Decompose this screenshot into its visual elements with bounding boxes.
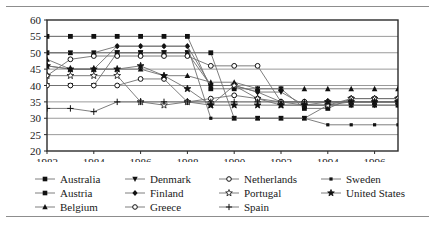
- data-point: [256, 117, 259, 120]
- data-point: [162, 54, 167, 59]
- data-point: [115, 34, 120, 39]
- data-point: [115, 83, 120, 88]
- legend-item-sweden[interactable]: Sweden: [320, 172, 405, 186]
- legend-item-label: Spain: [240, 201, 269, 213]
- data-point: [138, 77, 143, 82]
- y-tick-label: 35: [30, 96, 42, 108]
- data-point: [255, 63, 260, 68]
- data-point: [44, 62, 51, 69]
- x-tick-label: 1986: [130, 156, 153, 162]
- x-tick-label: 1990: [223, 156, 246, 162]
- diamond-filled-icon: [124, 187, 146, 199]
- data-point: [67, 72, 74, 79]
- data-point: [185, 54, 190, 59]
- data-point: [91, 34, 96, 39]
- data-point: [207, 102, 214, 109]
- legend-item-australia[interactable]: Australia: [34, 172, 100, 186]
- x-tick-label: 1982: [36, 156, 58, 162]
- line-chart: 2025303540455055601982198419861988199019…: [0, 12, 435, 162]
- legend-item-label: Greece: [146, 201, 181, 213]
- data-point: [162, 45, 165, 48]
- chart-svg: 2025303540455055601982198419861988199019…: [0, 12, 435, 162]
- data-point: [254, 102, 261, 109]
- x-tick-label: 1984: [83, 156, 106, 162]
- legend-item-label: United States: [342, 187, 405, 199]
- data-point: [68, 34, 73, 39]
- star-open-icon: [218, 187, 240, 199]
- chart-page: 2025303540455055601982198419861988199019…: [0, 0, 435, 232]
- legend-item-portugal[interactable]: Portugal: [218, 186, 297, 200]
- data-point: [133, 205, 138, 210]
- series-line: [47, 102, 398, 112]
- data-point: [303, 117, 306, 120]
- legend-item-label: Australia: [56, 173, 100, 185]
- x-tick-label: 1996: [364, 156, 387, 162]
- data-point: [43, 191, 48, 196]
- triangle-filled-icon: [34, 201, 56, 213]
- data-point: [138, 54, 143, 59]
- y-tick-label: 25: [30, 129, 42, 141]
- legend-item-label: Belgium: [56, 201, 98, 213]
- bottom-divider-rule: [6, 216, 429, 217]
- y-tick-label: 50: [30, 47, 42, 59]
- data-point: [279, 117, 282, 120]
- legend-item-austria[interactable]: Austria: [34, 186, 100, 200]
- data-point: [68, 83, 73, 88]
- data-point: [114, 72, 121, 79]
- data-point: [137, 62, 144, 69]
- plus-icon: [218, 201, 240, 213]
- chart-legend: AustraliaAustriaBelgium DenmarkFinlandGr…: [0, 172, 435, 216]
- data-point: [68, 57, 73, 62]
- legend-item-belgium[interactable]: Belgium: [34, 200, 100, 214]
- y-tick-label: 45: [30, 63, 42, 75]
- legend-column-3: NetherlandsPortugalSpain: [218, 172, 297, 214]
- legend-item-netherlands[interactable]: Netherlands: [218, 172, 297, 186]
- legend-item-finland[interactable]: Finland: [124, 186, 191, 200]
- data-point: [232, 63, 237, 68]
- top-divider-rule: [6, 6, 429, 7]
- legend-column-4: SwedenUnited States: [320, 172, 405, 200]
- circle-open-icon: [124, 201, 146, 213]
- circle-open-icon: [218, 173, 240, 185]
- legend-item-label: Portugal: [240, 187, 281, 199]
- data-point: [350, 123, 353, 126]
- data-point: [91, 83, 96, 88]
- legend-item-united-states[interactable]: United States: [320, 186, 405, 200]
- legend-item-label: Netherlands: [240, 173, 297, 185]
- x-tick-label: 1988: [176, 156, 199, 162]
- legend-item-label: Sweden: [342, 173, 381, 185]
- data-point: [44, 56, 50, 61]
- y-tick-label: 60: [30, 14, 42, 26]
- legend-item-label: Denmark: [146, 173, 191, 185]
- legend-item-denmark[interactable]: Denmark: [124, 172, 191, 186]
- y-tick-label: 55: [30, 30, 42, 42]
- data-point: [115, 54, 120, 59]
- data-point: [139, 45, 142, 48]
- y-tick-label: 30: [30, 112, 42, 124]
- data-point: [185, 34, 190, 39]
- legend-item-greece[interactable]: Greece: [124, 200, 191, 214]
- data-point: [233, 117, 236, 120]
- data-point: [208, 50, 213, 55]
- data-point: [138, 34, 143, 39]
- data-point: [226, 190, 233, 196]
- legend-item-label: Austria: [56, 187, 92, 199]
- data-point: [227, 177, 232, 182]
- data-point: [162, 34, 167, 39]
- data-point: [186, 45, 189, 48]
- data-point: [116, 45, 119, 48]
- triangle-down-icon: [124, 173, 146, 185]
- data-point: [44, 72, 51, 79]
- data-point: [69, 51, 72, 54]
- x-tick-label: 1994: [317, 156, 340, 162]
- legend-item-spain[interactable]: Spain: [218, 200, 297, 214]
- data-point: [208, 63, 213, 68]
- data-point: [209, 117, 212, 120]
- data-point: [396, 123, 399, 126]
- data-point: [92, 51, 95, 54]
- star-filled-icon: [320, 187, 342, 199]
- data-point: [231, 102, 238, 109]
- data-point: [43, 177, 48, 182]
- legend-item-label: Finland: [146, 187, 184, 199]
- data-point: [329, 177, 332, 180]
